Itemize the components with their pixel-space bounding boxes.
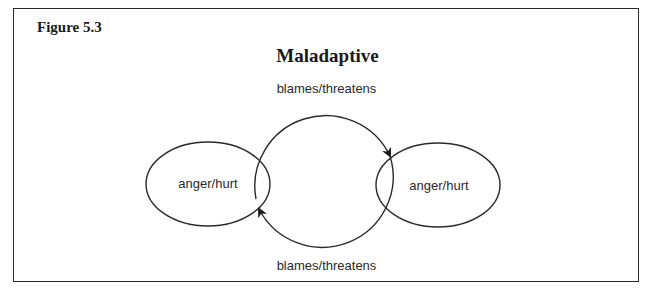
left-node-label: anger/hurt <box>148 176 268 191</box>
figure-number: Figure 5.3 <box>37 19 102 36</box>
diagram-title: Maladaptive <box>0 45 651 67</box>
right-node-label: anger/hurt <box>379 178 499 193</box>
bottom-edge-label: blames/threatens <box>0 258 651 273</box>
top-edge-label: blames/threatens <box>0 81 651 96</box>
